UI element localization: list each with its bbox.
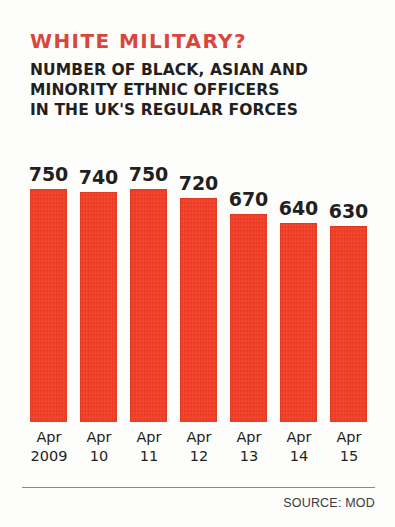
bar-group: 750: [130, 150, 167, 422]
x-axis-tick: Apr14: [274, 428, 324, 465]
bar: [80, 192, 117, 422]
x-tick-year: 2009: [24, 447, 74, 466]
bar-chart-plot-area: 750740750720670640630: [30, 150, 370, 422]
x-tick-year: 14: [274, 447, 324, 466]
x-tick-month: Apr: [174, 428, 224, 447]
x-axis-tick: Apr11: [124, 428, 174, 465]
x-tick-month: Apr: [224, 428, 274, 447]
x-tick-month: Apr: [24, 428, 74, 447]
x-axis-tick: Apr12: [174, 428, 224, 465]
x-tick-month: Apr: [324, 428, 374, 447]
bar: [330, 226, 367, 422]
x-tick-year: 11: [124, 447, 174, 466]
bar-group: 640: [280, 150, 317, 422]
bar: [180, 198, 217, 422]
bar-value-label: 740: [79, 168, 119, 187]
bar: [130, 189, 167, 422]
bar-group: 750: [30, 150, 67, 422]
x-tick-year: 10: [74, 447, 124, 466]
infographic-page: WHITE MILITARY? NUMBER OF BLACK, ASIAN A…: [0, 0, 395, 527]
bar-group: 630: [330, 150, 367, 422]
x-tick-month: Apr: [124, 428, 174, 447]
source-label: SOURCE: MOD: [283, 496, 375, 510]
bar: [230, 214, 267, 422]
x-tick-year: 12: [174, 447, 224, 466]
x-axis-labels: Apr2009Apr10Apr11Apr12Apr13Apr14Apr15: [30, 428, 370, 474]
footer-divider: [22, 487, 375, 488]
bar-value-label: 750: [29, 165, 69, 184]
subtitle-line-2: MINORITY ETHNIC OFFICERS: [30, 81, 360, 101]
x-axis-tick: Apr2009: [24, 428, 74, 465]
bar-group: 670: [230, 150, 267, 422]
bar: [280, 223, 317, 422]
x-tick-month: Apr: [274, 428, 324, 447]
headline-block: WHITE MILITARY? NUMBER OF BLACK, ASIAN A…: [30, 30, 360, 120]
bar: [30, 189, 67, 422]
x-tick-year: 13: [224, 447, 274, 466]
x-tick-year: 15: [324, 447, 374, 466]
bar-value-label: 750: [129, 165, 169, 184]
x-axis-tick: Apr15: [324, 428, 374, 465]
chart-subtitle: NUMBER OF BLACK, ASIAN AND MINORITY ETHN…: [30, 61, 360, 120]
x-axis-tick: Apr10: [74, 428, 124, 465]
bar-value-label: 720: [179, 174, 219, 193]
subtitle-line-3: IN THE UK'S REGULAR FORCES: [30, 101, 360, 121]
bar-value-label: 640: [279, 199, 319, 218]
x-axis-tick: Apr13: [224, 428, 274, 465]
bar-group: 720: [180, 150, 217, 422]
bar-group: 740: [80, 150, 117, 422]
bar-value-label: 630: [329, 202, 369, 221]
x-tick-month: Apr: [74, 428, 124, 447]
page-title: WHITE MILITARY?: [30, 30, 360, 52]
subtitle-line-1: NUMBER OF BLACK, ASIAN AND: [30, 61, 360, 81]
bar-value-label: 670: [229, 190, 269, 209]
